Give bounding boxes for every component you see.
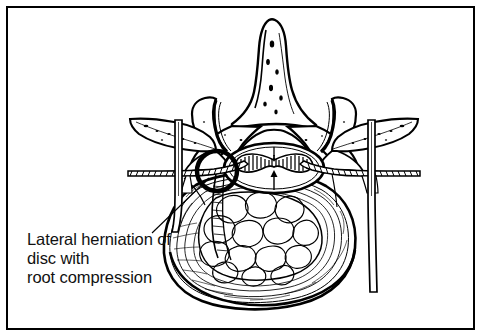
vertebra-cross-section-drawing: Lateral herniation of disc with root com… (0, 0, 481, 336)
instrument-rod-right (368, 120, 377, 292)
annotation-label-line-2: disc with (27, 249, 89, 267)
annotation-label-line-3: root compression (27, 268, 152, 286)
annotation-label-line-1: Lateral herniation of (27, 230, 171, 248)
medical-illustration-figure: Lateral herniation of disc with root com… (0, 0, 481, 336)
